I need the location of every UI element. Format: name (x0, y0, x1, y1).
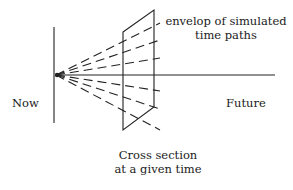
cross-section-label-line1: Cross section (103, 148, 213, 162)
cross-section-label-line2: at a given time (103, 162, 213, 176)
cross-section-label: Cross section at a given time (103, 148, 213, 176)
future-label: Future (226, 96, 266, 110)
origin-point (55, 73, 59, 77)
envelope-label-line2: time paths (163, 28, 289, 42)
envelope-label: envelop of simulated time paths (163, 14, 289, 42)
envelope-label-line1: envelop of simulated (163, 14, 289, 28)
now-label: Now (12, 96, 39, 110)
